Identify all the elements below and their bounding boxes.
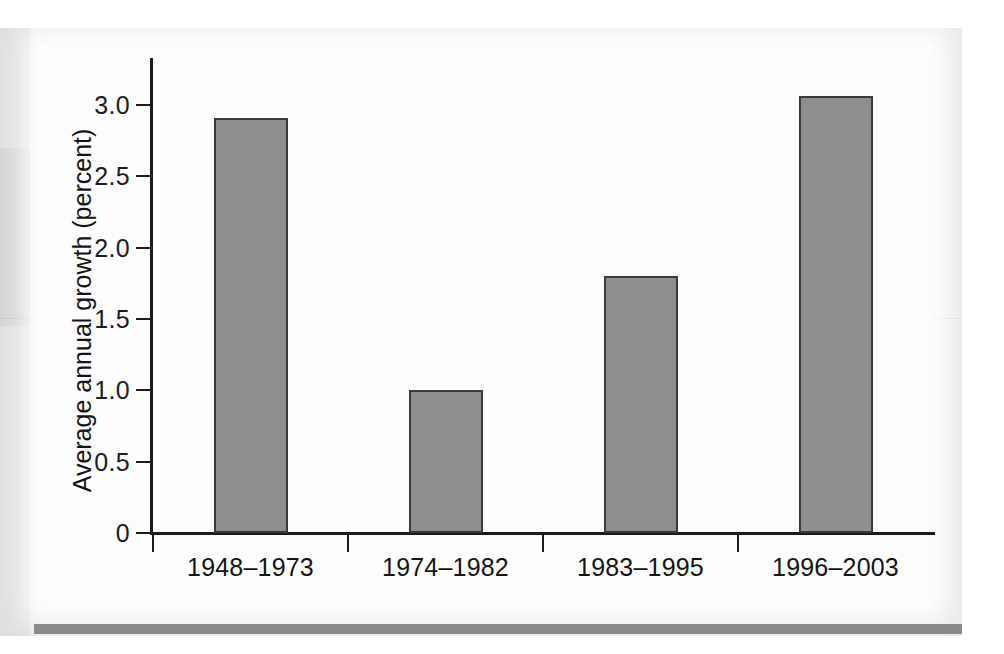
y-tick-mark (136, 175, 150, 177)
y-tick-label: 2.0 (72, 233, 130, 262)
y-tick-mark (136, 389, 150, 391)
x-tick-label: 1983–1995 (577, 553, 704, 582)
y-tick-label: 2.5 (72, 162, 130, 191)
y-tick-label: 1.5 (72, 305, 130, 334)
y-tick-mark (136, 532, 150, 534)
bar (409, 390, 483, 533)
page-horizontal-rule (34, 624, 962, 634)
y-tick-label: 1.0 (72, 376, 130, 405)
y-tick-mark (136, 104, 150, 106)
y-tick-mark (136, 247, 150, 249)
x-tick-mark (347, 535, 349, 552)
y-tick-mark (136, 318, 150, 320)
x-tick-mark (737, 535, 739, 552)
bar (214, 118, 288, 533)
x-tick-label: 1996–2003 (772, 553, 899, 582)
y-tick-label: 3.0 (72, 91, 130, 120)
y-tick-mark (136, 461, 150, 463)
y-axis-line (150, 58, 153, 535)
x-tick-mark (542, 535, 544, 552)
bar (604, 276, 678, 533)
figure-page: Average annual growth (percent) 00.51.01… (0, 0, 1004, 654)
x-tick-label: 1974–1982 (382, 553, 509, 582)
x-tick-label: 1948–1973 (187, 553, 314, 582)
bar (799, 96, 873, 533)
y-tick-label: 0.5 (72, 447, 130, 476)
bar-chart: Average annual growth (percent) 00.51.01… (0, 0, 1004, 654)
x-tick-mark (152, 535, 154, 552)
y-tick-label: 0 (72, 519, 130, 548)
